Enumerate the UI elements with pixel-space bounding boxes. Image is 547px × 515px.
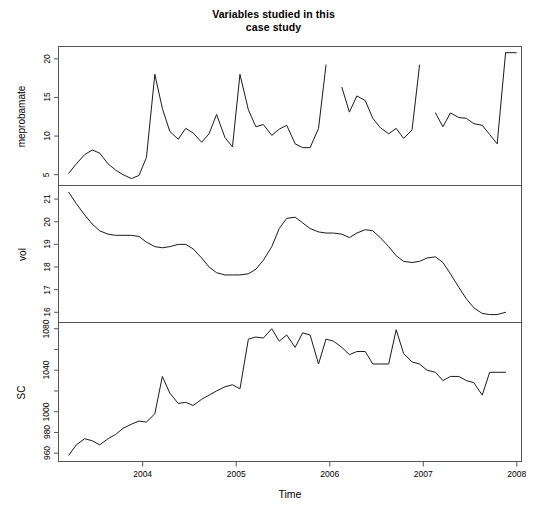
panel-1-y-tick-label: 10 bbox=[42, 131, 52, 140]
panel-2-y-tick-label: 16 bbox=[42, 308, 52, 317]
panel-2-y-axis-label: vol bbox=[16, 248, 27, 261]
panel-1-y-tick-label: 5 bbox=[41, 172, 51, 177]
panel-1-y-axis-label: meprobamate bbox=[16, 85, 27, 147]
panel-3-y-tick-label: 960 bbox=[42, 446, 52, 460]
x-tick-label: 2006 bbox=[320, 469, 339, 479]
panel-3-series-SC bbox=[69, 329, 506, 456]
panel-1-series-meprobamate bbox=[342, 65, 420, 138]
panel-1-frame bbox=[59, 47, 522, 186]
panel-1-series-meprobamate bbox=[435, 53, 505, 144]
panel-3-y-tick-label: 1080 bbox=[41, 319, 51, 338]
panel-2-y-tick-label: 17 bbox=[42, 285, 52, 294]
x-tick-label: 2005 bbox=[227, 469, 246, 479]
panel-3-frame bbox=[59, 323, 522, 462]
x-tick-label: 2004 bbox=[133, 469, 152, 479]
panel-3-y-tick-label: 980 bbox=[42, 425, 52, 439]
panel-2-y-tick-label: 20 bbox=[42, 217, 52, 226]
panel-3-y-axis-label: SC bbox=[16, 385, 27, 399]
panel-1-y-tick-label: 15 bbox=[42, 93, 52, 102]
panel-1-y-tick-label: 20 bbox=[42, 54, 52, 63]
x-tick-label: 2008 bbox=[507, 469, 526, 479]
panel-2-series-vol bbox=[69, 192, 506, 314]
chart-figure: Variables studied in this case study mep… bbox=[0, 0, 547, 515]
panel-2-y-tick-label: 19 bbox=[42, 240, 52, 249]
x-axis-label: Time bbox=[279, 488, 302, 500]
multi-panel-plot bbox=[0, 0, 547, 515]
panel-2-frame bbox=[59, 186, 522, 323]
panel-1-series-meprobamate bbox=[69, 65, 326, 179]
panel-3-y-tick-label: 1000 bbox=[41, 402, 51, 421]
x-tick-label: 2007 bbox=[414, 469, 433, 479]
panel-2-y-tick-label: 21 bbox=[42, 194, 52, 203]
panel-2-y-tick-label: 18 bbox=[42, 262, 52, 271]
panel-3-y-tick-label: 1040 bbox=[41, 361, 51, 380]
